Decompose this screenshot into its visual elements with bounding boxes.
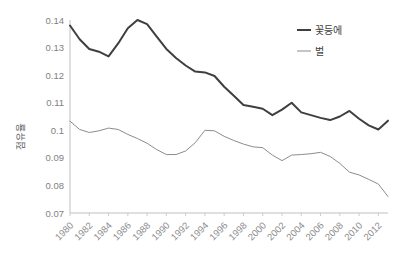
y-tick-label: 0.11 [46, 97, 64, 108]
y-tick-label: 0.1 [51, 125, 64, 136]
y-axis-title-text: 점유율 [15, 123, 26, 150]
line-chart: 0.140.130.120.110.10.090.080.07 19801982… [0, 0, 402, 261]
y-tick-label: 0.14 [46, 15, 65, 26]
y-tick-label: 0.12 [46, 70, 65, 81]
y-tick-label: 0.09 [46, 152, 65, 163]
y-tick-label: 0.07 [46, 208, 65, 219]
chart-canvas: 0.140.130.120.110.10.090.080.07 19801982… [0, 0, 402, 261]
y-axis-title: 점유율 [15, 123, 26, 150]
legend-label-2: 벌 [315, 46, 324, 57]
y-tick-label: 0.13 [46, 42, 65, 53]
y-tick-label: 0.08 [46, 180, 65, 191]
legend-label-1: 꽃등에 [315, 25, 342, 36]
